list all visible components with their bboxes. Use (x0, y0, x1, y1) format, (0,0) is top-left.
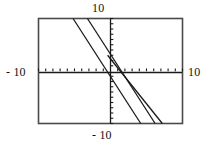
plot-canvas (0, 0, 208, 147)
graph-figure: 10 - 10 - 10 10 (0, 0, 208, 147)
